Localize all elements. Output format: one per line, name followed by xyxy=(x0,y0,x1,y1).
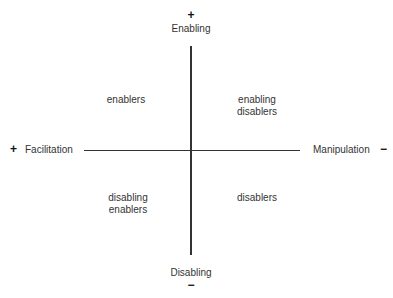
bottom-axis-sign: − xyxy=(181,279,201,291)
top-axis-label: Enabling xyxy=(151,23,231,35)
quadrant-bottom-left: disabling enablers xyxy=(96,192,160,216)
quadrant-top-left: enablers xyxy=(96,94,156,106)
top-axis-sign: + xyxy=(181,9,201,21)
quadrant-bottom-right: disablers xyxy=(222,192,292,204)
left-axis-sign: + xyxy=(10,143,17,155)
quadrant-text-line: enablers xyxy=(96,94,156,106)
quadrant-text-line: enablers xyxy=(96,204,160,216)
left-axis-label: Facilitation xyxy=(25,144,73,156)
quadrant-top-right: enabling disablers xyxy=(222,94,292,118)
quadrant-text-line: disablers xyxy=(222,192,292,204)
quadrant-text-line: disablers xyxy=(222,106,292,118)
quadrant-text-line: disabling xyxy=(96,192,160,204)
right-axis-sign: − xyxy=(380,143,387,155)
horizontal-axis xyxy=(84,150,300,151)
quadrant-text-line: enabling xyxy=(222,94,292,106)
right-axis-label: Manipulation xyxy=(313,144,370,156)
